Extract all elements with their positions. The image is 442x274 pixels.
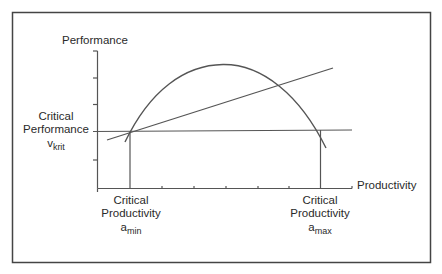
critical-performance-line1: Critical [22, 110, 90, 123]
a-min-line2: Productivity [95, 207, 167, 220]
critical-productivity-max-label: Critical Productivity amax [284, 194, 356, 238]
critical-productivity-min-label: Critical Productivity amin [95, 194, 167, 238]
x-axis [98, 186, 353, 192]
v-krit-subscript: krit [53, 142, 65, 152]
x-axis-label: Productivity [357, 179, 416, 192]
a-max-symbol-row: amax [284, 221, 356, 238]
y-axis [93, 51, 98, 189]
diagram: Performance Productivity Critical Perfor… [0, 0, 442, 274]
y-axis-label: Performance [62, 34, 128, 47]
a-min-subscript: min [127, 226, 142, 236]
critical-performance-symbol: vkrit [22, 137, 90, 154]
a-min-symbol-row: amin [95, 221, 167, 238]
critical-performance-label: Critical Performance vkrit [22, 110, 90, 154]
a-max-line2: Productivity [284, 207, 356, 220]
performance-curve [125, 64, 326, 148]
linear-line [107, 68, 333, 140]
a-max-subscript: max [315, 226, 332, 236]
a-max-line1: Critical [284, 194, 356, 207]
a-min-line1: Critical [95, 194, 167, 207]
critical-performance-line2: Performance [22, 123, 90, 136]
